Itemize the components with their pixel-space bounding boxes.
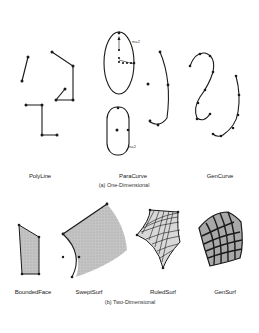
annotation-m2-top: m=2 (132, 39, 141, 44)
polyline-figure (21, 51, 75, 137)
annotation-m2-bottom: m=2 (128, 144, 137, 149)
label-paracurve: ParaCurve (119, 173, 147, 179)
paracurve-figure: m=2 m=2 (104, 32, 169, 155)
gensurf-figure (199, 212, 242, 266)
label-boundedface: BoundedFace (15, 289, 51, 295)
gencurve-figure (189, 53, 241, 138)
label-gencurve: GenCurve (207, 173, 234, 179)
label-polyline: PolyLine (29, 173, 51, 179)
label-gensurf: GenSurf (214, 289, 236, 295)
boundedface-figure (18, 224, 41, 276)
label-sweptsurf: SweptSurf (76, 289, 103, 295)
label-ruledsurf: RuledSurf (150, 289, 176, 295)
ruledsurf-figure (136, 209, 180, 270)
caption-one-dimensional: (a) One-Dimensional (99, 182, 150, 188)
geometry-diagram: m=2 m=2 (0, 0, 259, 333)
sweptsurf-figure (62, 203, 127, 279)
caption-two-dimensional: (b) Two-Dimensional (105, 299, 155, 305)
